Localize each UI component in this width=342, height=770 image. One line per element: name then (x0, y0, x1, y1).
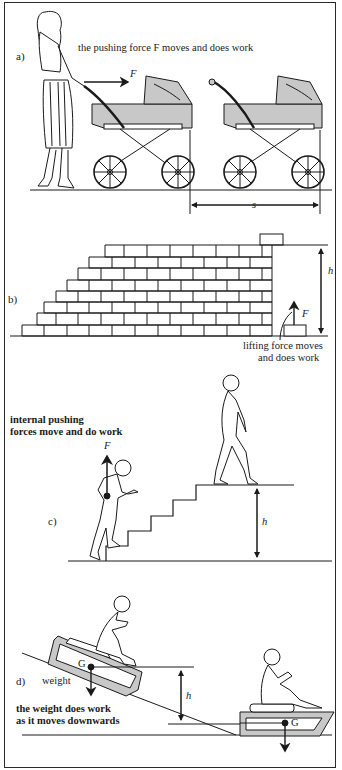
panel-d-centre-label-1: G (78, 658, 86, 670)
pram-end-icon (209, 76, 324, 188)
panel-c-caption-line2: forces move and do work (10, 426, 122, 438)
panel-b-caption-line2: and does work (258, 352, 319, 364)
panel-b-label: b) (8, 293, 17, 305)
panel-b-drawing (10, 234, 328, 340)
panel-c-force-label: F (104, 440, 110, 452)
panel-a-label: a) (16, 50, 25, 62)
panel-b-height-label: h (328, 265, 333, 277)
panel-c-caption-line1: internal pushing (10, 414, 84, 426)
panel-a-distance-label: s (252, 199, 256, 211)
panel-d-weight-label: weight (42, 675, 71, 687)
panel-d-centre-label-2: G (291, 717, 299, 729)
panel-b-caption-line1: lifting force moves (243, 340, 323, 352)
panel-d-label: d) (16, 675, 25, 687)
panel-c-drawing (68, 375, 332, 561)
panel-d-drawing (22, 596, 334, 751)
pram-start-icon (84, 76, 194, 188)
person-top-icon (214, 375, 258, 484)
panel-b-force-label: F (302, 308, 308, 320)
woman-pushing-icon (37, 11, 84, 188)
panel-a-force-label: F (130, 68, 136, 80)
panel-d-caption-line1: the weight does work (16, 703, 111, 715)
panel-d-caption-line2: as it moves downwards (16, 715, 120, 727)
panel-d-height-label: h (186, 690, 191, 702)
person-climbing-icon (90, 456, 138, 560)
panel-c-label: c) (48, 515, 57, 527)
panel-c-height-label: h (262, 516, 267, 528)
brick-wall (22, 245, 272, 336)
panel-a-caption: the pushing force F moves and does work (78, 42, 253, 54)
figure-drawing (0, 0, 342, 770)
